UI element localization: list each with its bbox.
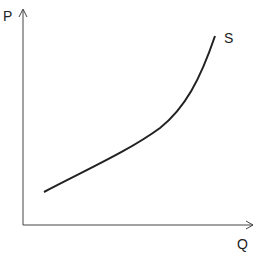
curve-label: S	[224, 30, 233, 46]
y-axis-label: P	[3, 8, 12, 24]
x-axis-label: Q	[237, 236, 248, 252]
supply-curve	[44, 36, 215, 192]
y-axis	[19, 9, 27, 225]
supply-diagram: P Q S	[0, 0, 266, 259]
x-axis	[23, 221, 253, 229]
